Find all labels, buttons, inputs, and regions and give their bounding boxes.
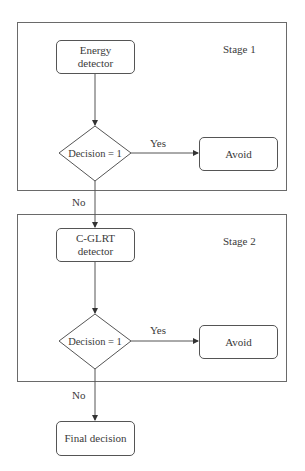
avoid-node-2: Avoid (199, 325, 278, 359)
no-label-2: No (72, 389, 85, 402)
energy-detector-line1: Energy (80, 44, 112, 57)
yes-label-2: Yes (150, 324, 166, 337)
c-glrt-detector-node: C-GLRT detector (56, 228, 135, 262)
flow-connectors (0, 0, 305, 471)
decision-1-label: Decision = 1 (68, 148, 122, 159)
energy-detector-line2: detector (78, 57, 113, 70)
decision-2-label: Decision = 1 (68, 336, 122, 347)
no-label-1: No (72, 196, 85, 209)
yes-label-1: Yes (150, 137, 166, 150)
energy-detector-node: Energy detector (56, 40, 135, 74)
c-glrt-detector-line2: detector (78, 245, 113, 258)
stage-2-label: Stage 2 (223, 235, 256, 248)
avoid-node-1: Avoid (199, 137, 278, 171)
stage-1-label: Stage 1 (223, 43, 256, 56)
c-glrt-detector-line1: C-GLRT (76, 232, 115, 245)
final-decision-node: Final decision (56, 421, 135, 456)
